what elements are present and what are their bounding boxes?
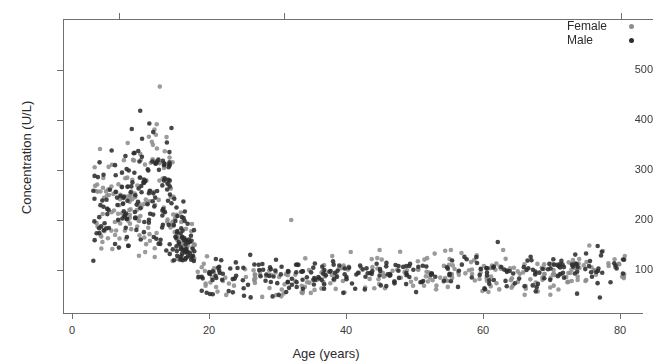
y-axis-title: Concentration (U/L) xyxy=(19,48,34,268)
y-tick-500 xyxy=(57,70,63,71)
y-tick-200 xyxy=(57,220,63,221)
x-tick-label-80: 80 xyxy=(600,325,640,336)
y-tick-label-300: 300 xyxy=(607,164,653,175)
legend: Female Male xyxy=(567,20,647,48)
legend-label-female: Female xyxy=(567,20,607,33)
x-tick-0 xyxy=(72,313,73,319)
y-tick-label-100: 100 xyxy=(607,264,653,275)
x-tick-label-0: 0 xyxy=(52,325,92,336)
x-tick-80 xyxy=(620,313,621,319)
top-tick-a xyxy=(119,13,120,19)
x-tick-60 xyxy=(483,313,484,319)
y-tick-label-200: 200 xyxy=(607,214,653,225)
x-axis-line xyxy=(63,313,643,314)
plot-area xyxy=(63,19,653,313)
y-tick-400 xyxy=(57,120,63,121)
x-tick-label-20: 20 xyxy=(189,325,229,336)
x-tick-20 xyxy=(209,313,210,319)
x-tick-40 xyxy=(346,313,347,319)
legend-item-female: Female xyxy=(567,20,647,33)
top-tick-c xyxy=(621,13,622,19)
legend-marker-male-icon xyxy=(629,38,634,43)
x-axis-title: Age (years) xyxy=(236,346,416,361)
scatter-plot-figure: 500 400 300 200 100 0 20 40 60 80 Concen… xyxy=(0,0,653,364)
legend-item-male: Male xyxy=(567,34,647,47)
legend-marker-female-icon xyxy=(629,24,634,29)
top-tick-b xyxy=(284,13,285,19)
y-tick-label-400: 400 xyxy=(607,114,653,125)
legend-label-male: Male xyxy=(567,34,593,47)
y-tick-100 xyxy=(57,270,63,271)
y-tick-300 xyxy=(57,170,63,171)
scatter-points-canvas xyxy=(63,19,653,313)
x-tick-label-40: 40 xyxy=(326,325,366,336)
x-tick-label-60: 60 xyxy=(463,325,503,336)
y-tick-label-500: 500 xyxy=(607,64,653,75)
